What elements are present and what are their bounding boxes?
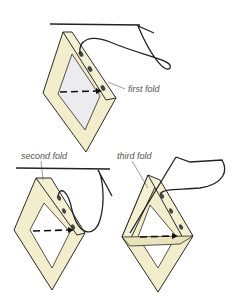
label-third-fold: third fold: [117, 151, 152, 161]
label-second-fold: second fold: [21, 151, 67, 161]
figure-third-fold: [122, 157, 225, 292]
thread: [80, 26, 171, 69]
leader-line: [108, 82, 125, 89]
label-first-fold: first fold: [128, 84, 160, 94]
figure-second-fold: [14, 161, 112, 290]
leader-line: [41, 161, 43, 180]
thread: [160, 157, 225, 194]
leader-line: [132, 161, 148, 188]
dashed-arrow: [140, 236, 172, 237]
needle-icon: [50, 24, 140, 25]
needle-icon: [16, 168, 110, 169]
